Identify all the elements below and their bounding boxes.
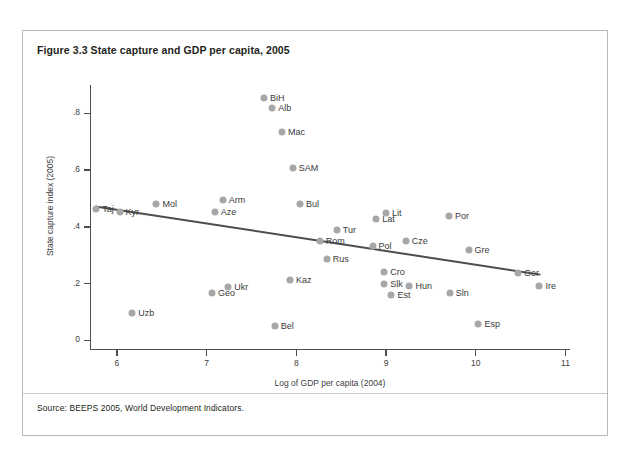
data-point-label: Mac — [288, 127, 305, 137]
data-point-label: SAM — [299, 163, 319, 173]
data-point[interactable] — [116, 209, 123, 216]
data-point-label: Ire — [545, 281, 556, 291]
data-point-label: Ger — [524, 268, 539, 278]
data-point[interactable] — [323, 255, 330, 262]
data-point-label: Est — [397, 290, 410, 300]
data-point[interactable] — [406, 282, 413, 289]
data-point-label: Sln — [456, 288, 469, 298]
x-tick-label: 10 — [464, 358, 488, 368]
data-point-label: Pol — [379, 241, 392, 251]
data-point-label: Rus — [333, 254, 349, 264]
data-point-label: Geo — [218, 288, 235, 298]
data-point-label: Rom — [326, 236, 345, 246]
data-point-label: Cze — [412, 236, 428, 246]
data-point[interactable] — [465, 246, 472, 253]
data-point-label: Mol — [162, 199, 177, 209]
data-point[interactable] — [445, 212, 452, 219]
data-point[interactable] — [475, 321, 482, 328]
y-tick-label: .8 — [56, 107, 80, 117]
x-tick-label: 7 — [195, 358, 219, 368]
y-tick-label: 0 — [56, 334, 80, 344]
data-point-label: Alb — [278, 103, 291, 113]
y-tick — [84, 113, 90, 114]
data-point-label: Aze — [221, 207, 237, 217]
data-point[interactable] — [514, 269, 521, 276]
data-point[interactable] — [219, 196, 226, 203]
data-point[interactable] — [316, 237, 323, 244]
source-divider — [23, 393, 607, 394]
y-tick-label: .6 — [56, 164, 80, 174]
data-point[interactable] — [271, 323, 278, 330]
data-point[interactable] — [279, 128, 286, 135]
data-point-label: Hun — [415, 281, 432, 291]
x-tick — [385, 350, 386, 356]
data-point-label: Tur — [343, 225, 356, 235]
y-tick-label: .2 — [56, 278, 80, 288]
y-axis-title: State capture index (2005) — [45, 116, 55, 296]
data-point-label: BiH — [270, 93, 285, 103]
data-point-label: Lat — [382, 214, 395, 224]
data-point[interactable] — [211, 209, 218, 216]
data-point-label: Cro — [390, 267, 405, 277]
data-point-label: Por — [455, 211, 469, 221]
trendline — [23, 31, 609, 437]
x-tick — [565, 350, 566, 356]
data-point[interactable] — [153, 201, 160, 208]
data-point[interactable] — [402, 237, 409, 244]
x-axis-line — [90, 349, 570, 350]
x-tick — [296, 350, 297, 356]
data-point[interactable] — [381, 269, 388, 276]
x-tick — [206, 350, 207, 356]
data-point[interactable] — [129, 310, 136, 317]
data-point[interactable] — [209, 289, 216, 296]
data-point[interactable] — [373, 216, 380, 223]
y-tick — [84, 283, 90, 284]
x-tick — [116, 350, 117, 356]
x-tick-label: 6 — [105, 358, 129, 368]
x-tick-label: 11 — [554, 358, 578, 368]
data-point[interactable] — [296, 201, 303, 208]
source-note: Source: BEEPS 2005, World Development In… — [37, 403, 244, 413]
data-point[interactable] — [446, 289, 453, 296]
y-tick — [84, 226, 90, 227]
data-point-label: Slk — [390, 279, 403, 289]
y-tick — [84, 340, 90, 341]
data-point-label: Arm — [229, 195, 246, 205]
data-point-label: Uzb — [138, 308, 154, 318]
data-point-label: Kaz — [296, 275, 312, 285]
data-point[interactable] — [388, 292, 395, 299]
data-point[interactable] — [289, 164, 296, 171]
x-tick-label: 9 — [374, 358, 398, 368]
data-point-label: Taj — [102, 204, 114, 214]
data-point[interactable] — [261, 95, 268, 102]
figure-container: Figure 3.3 State capture and GDP per cap… — [22, 30, 608, 436]
x-tick-label: 8 — [284, 358, 308, 368]
data-point-label: Gre — [475, 245, 490, 255]
data-point-label: Esp — [484, 319, 500, 329]
data-point[interactable] — [93, 206, 100, 213]
y-tick-label: .4 — [56, 221, 80, 231]
data-point-label: Ukr — [234, 282, 248, 292]
y-axis-line — [90, 85, 91, 350]
x-tick — [475, 350, 476, 356]
data-point-label: Bul — [306, 199, 319, 209]
data-point-label: Bel — [281, 321, 294, 331]
scatter-plot: 678910110.2.4.6.8 BiHAlbMacSAMBulArmAzeM… — [23, 31, 609, 437]
data-point[interactable] — [287, 277, 294, 284]
data-point[interactable] — [333, 226, 340, 233]
x-axis-title: Log of GDP per capita (2004) — [90, 378, 570, 388]
data-point[interactable] — [381, 280, 388, 287]
y-tick — [84, 169, 90, 170]
data-point-label: Kyr — [126, 207, 140, 217]
data-point[interactable] — [269, 105, 276, 112]
data-point[interactable] — [536, 282, 543, 289]
data-point[interactable] — [369, 243, 376, 250]
